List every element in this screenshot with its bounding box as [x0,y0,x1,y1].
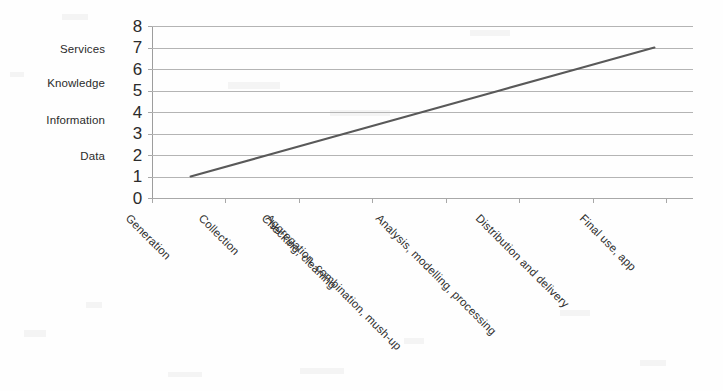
tier-label-text: Services [60,43,105,55]
y-axis-tick-7: 7 [122,39,142,56]
x-axis-tick [299,198,300,203]
x-axis-category-label-4: Aggregation, combination, mush-up [264,212,404,352]
scan-artifact [86,302,102,308]
y-axis-tick-0: 0 [122,190,142,207]
chart-figure: Services Knowledge Information Data 8 7 … [0,0,723,391]
y-axis-tick-2: 2 [122,147,142,164]
y-axis-tick-3: 3 [122,125,142,142]
x-axis-tick [446,198,447,203]
scan-artifact [24,330,46,337]
tier-label-text: Data [80,150,105,162]
x-axis-tick [152,198,153,203]
scan-artifact [168,372,202,377]
y-axis-tick-5: 5 [122,82,142,99]
x-axis-category-label-2: Collection [197,212,242,257]
tier-label-knowledge: Knowledge [0,77,105,89]
x-axis-category-label-1: Generation [124,212,174,262]
y-axis-tick-1: 1 [122,168,142,185]
x-axis-tick [225,198,226,203]
x-axis-category-label-6: Distribution and delivery [474,212,572,310]
x-axis-tick [593,198,594,203]
tier-label-information: Information [0,114,105,126]
tier-label-text: Knowledge [47,77,105,89]
scan-artifact [640,360,666,366]
y-axis-tick-6: 6 [122,61,142,78]
scan-artifact [300,368,344,374]
plot-area [152,26,693,198]
scan-artifact [560,310,590,316]
tier-label-text: Information [46,114,105,126]
x-axis-category-label-5: Analysis, modelling, processing [374,212,499,337]
series-line [152,26,693,198]
x-axis-tick [372,198,373,203]
tier-label-services: Services [0,43,105,55]
y-axis-tick-8: 8 [122,18,142,35]
x-axis-category-label-7: Final use, app [578,212,639,273]
tier-label-data: Data [0,150,105,162]
series-polyline [191,48,655,177]
scan-artifact [404,338,424,344]
x-axis-tick [519,198,520,203]
y-axis-tick-4: 4 [122,104,142,121]
x-axis-line [152,198,693,199]
x-axis-tick [666,198,667,203]
scan-artifact [62,14,88,20]
